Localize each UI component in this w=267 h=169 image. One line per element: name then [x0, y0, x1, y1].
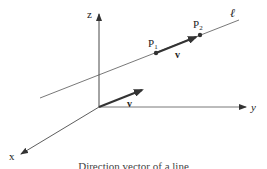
p1-label: P1: [148, 37, 158, 51]
line-label: ℓ: [230, 6, 235, 20]
y-axis-label: y: [250, 101, 256, 113]
point-p1: [154, 51, 158, 55]
x-axis: [21, 107, 99, 154]
line-l: [40, 20, 239, 98]
figure-caption: Direction vector of a line: [0, 160, 267, 169]
z-axis-label: z: [87, 8, 92, 20]
vector-v-origin-label: v: [127, 98, 132, 109]
vector-v-on-line-label: v: [175, 49, 180, 60]
point-p2: [198, 33, 202, 37]
vector-v-origin: [99, 90, 142, 107]
p1-subscript: 1: [154, 43, 158, 51]
p2-subscript: 2: [199, 24, 203, 32]
line-direction-vector-diagram: z y x ℓ P1 P2 v v: [0, 0, 267, 169]
p2-label: P2: [193, 18, 203, 32]
